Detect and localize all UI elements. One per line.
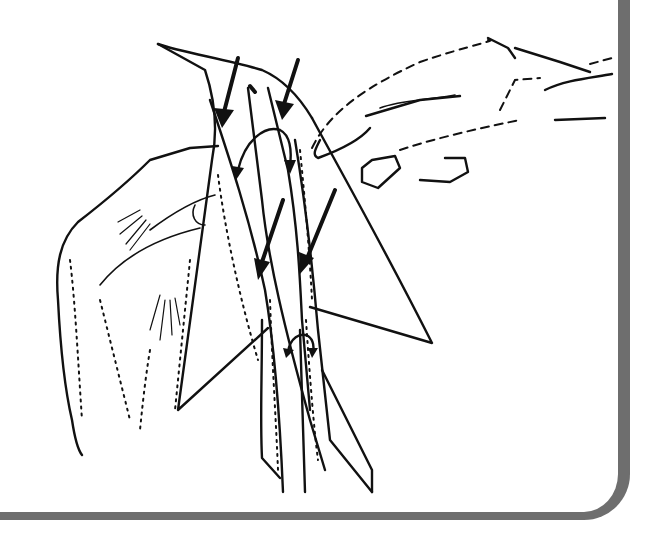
curved-fold-arrow [232, 129, 296, 180]
fold-arrow [254, 200, 283, 280]
right-hand [312, 38, 612, 188]
fold-arrow [275, 60, 298, 120]
paper-airplane-folding-illustration [0, 0, 646, 539]
fold-arrow [214, 58, 238, 128]
fold-arrow [250, 86, 255, 92]
paper-airplane [158, 44, 432, 492]
